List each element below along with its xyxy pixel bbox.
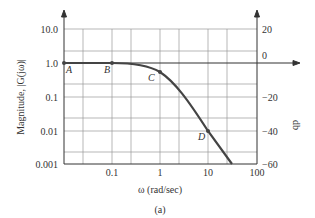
- svg-text:0: 0: [262, 50, 267, 61]
- figure-caption: (a): [154, 204, 165, 216]
- svg-text:10.0: 10.0: [41, 24, 59, 35]
- y-tick-labels: 10.0 1.0 0.1 0.01 0.001: [36, 24, 59, 170]
- point-label-d: D: [197, 131, 206, 142]
- db-axis-label: db: [291, 120, 302, 130]
- svg-text:−20: −20: [262, 92, 278, 103]
- right-axis-arrow-icon: [255, 10, 260, 17]
- x-tick-labels: 0.1 1 10 100: [106, 167, 265, 178]
- svg-text:0.1: 0.1: [46, 92, 59, 103]
- svg-text:100: 100: [250, 167, 265, 178]
- svg-text:10: 10: [203, 167, 213, 178]
- point-label-a: A: [65, 64, 73, 75]
- left-axis-arrow-icon: [62, 10, 67, 17]
- svg-text:0.001: 0.001: [36, 159, 59, 170]
- grid: [64, 29, 257, 164]
- svg-text:0.01: 0.01: [41, 126, 59, 137]
- bode-magnitude-chart: A B C D 10.0 1.0 0.1 0.01 0.001 20 0 −20…: [0, 0, 315, 218]
- svg-text:1: 1: [158, 167, 163, 178]
- point-label-b: B: [104, 64, 110, 75]
- x-axis-label: ω (rad/sec): [138, 184, 182, 196]
- svg-text:1.0: 1.0: [46, 58, 59, 69]
- zero-db-arrow-icon: [293, 61, 300, 66]
- svg-text:20: 20: [262, 24, 272, 35]
- svg-text:0.1: 0.1: [106, 167, 119, 178]
- db-tick-labels: 20 0 −20 −40 −60: [262, 24, 278, 170]
- svg-text:−40: −40: [262, 126, 278, 137]
- y-axis-label: Magnitude, |G(jω)|: [15, 59, 27, 135]
- point-label-c: C: [148, 72, 155, 83]
